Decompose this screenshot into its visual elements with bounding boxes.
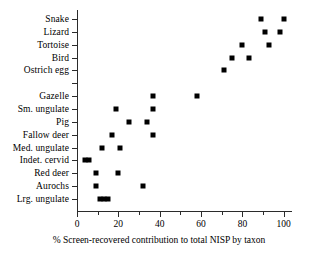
y-axis-label-ostrich-egg: Ostrich egg (24, 65, 69, 75)
x-axis-tick-minor (139, 212, 140, 215)
x-axis-tick-minor (98, 212, 99, 215)
data-point (281, 17, 286, 22)
data-point (116, 171, 121, 176)
x-axis-tick-major (160, 212, 161, 217)
data-point (151, 132, 156, 137)
y-axis-label-lizard: Lizard (44, 27, 69, 37)
y-axis-label-snake: Snake (45, 14, 69, 24)
data-point (118, 145, 123, 150)
y-axis-label-red-deer: Red deer (34, 168, 69, 178)
x-axis-tick-label: 60 (196, 219, 206, 230)
y-axis-label-tortoise: Tortoise (37, 40, 69, 50)
x-axis-tick-major (118, 212, 119, 217)
x-axis-tick-label: 40 (155, 219, 165, 230)
x-axis-tick-label: 20 (114, 219, 124, 230)
data-point (93, 171, 98, 176)
data-point (263, 29, 268, 34)
data-point-layer (77, 10, 292, 212)
data-point (221, 68, 226, 73)
y-axis-label-indet-cervid: Indet. cervid (20, 155, 69, 165)
data-point (106, 196, 111, 201)
data-point (194, 94, 199, 99)
data-point (87, 158, 92, 163)
y-axis-label-bird: Bird (52, 53, 69, 63)
x-axis-tick-minor (263, 212, 264, 215)
data-point (114, 106, 119, 111)
y-axis-label-lrg-ungulate: Lrg. ungulate (17, 194, 69, 204)
x-axis-tick-label: 100 (277, 219, 291, 230)
x-axis-tick-minor (180, 212, 181, 215)
x-axis-title: % Screen-recovered contribution to total… (0, 234, 318, 246)
data-point (151, 106, 156, 111)
data-point (151, 94, 156, 99)
x-axis-tick-major (201, 212, 202, 217)
x-axis-tick-label: 0 (75, 219, 80, 230)
data-point (230, 55, 235, 60)
data-point (246, 55, 251, 60)
data-point (126, 119, 131, 124)
x-axis-tick-major (284, 212, 285, 217)
data-point (93, 184, 98, 189)
x-axis-tick-major (77, 212, 78, 217)
x-axis-tick-label: 80 (238, 219, 248, 230)
data-point (240, 42, 245, 47)
data-point (99, 145, 104, 150)
y-axis-label-pig: Pig (56, 117, 69, 127)
data-point (145, 119, 150, 124)
scatter-plot-figure: SnakeLizardTortoiseBirdOstrich eggGazell… (0, 0, 318, 258)
data-point (141, 184, 146, 189)
y-axis-label-med-ungulate: Med. ungulate (13, 143, 69, 153)
y-axis-label-fallow-deer: Fallow deer (23, 130, 69, 140)
data-point (110, 132, 115, 137)
y-axis-label-sm-ungulate: Sm. ungulate (18, 104, 69, 114)
x-axis-tick-major (242, 212, 243, 217)
y-axis-label-aurochs: Aurochs (36, 181, 69, 191)
x-axis-tick-minor (222, 212, 223, 215)
data-point (277, 29, 282, 34)
y-axis-label-gazelle: Gazelle (39, 91, 69, 101)
data-point (267, 42, 272, 47)
data-point (258, 17, 263, 22)
